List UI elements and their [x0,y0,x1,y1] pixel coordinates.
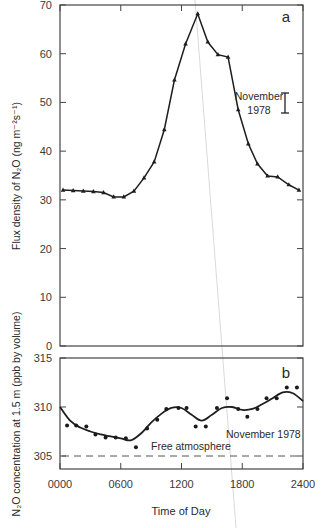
data-dot [176,406,180,410]
error-bar-label-month: November [235,90,284,102]
data-dot [164,407,168,411]
data-dot [285,385,289,389]
data-dot [65,424,69,428]
data-dot [93,432,97,436]
x-tick-label: 0000 [48,478,72,490]
y-tick-label: 10 [40,291,52,303]
y-tick-label: 315 [34,352,52,364]
y-tick-label: 310 [34,401,52,413]
data-dot [114,435,118,439]
triangle-marker [162,127,167,131]
panel-a-y-axis: 010203040506070 [40,0,303,352]
y-tick-label: 60 [40,48,52,60]
triangle-marker [152,159,157,163]
panel-b-frame [60,358,303,469]
data-dot [124,436,128,440]
y-tick-label: 30 [40,194,52,206]
figure: 010203040506070 a November 1978 Flux den… [0,0,322,528]
triangle-marker [236,107,241,111]
data-dot [185,406,189,410]
panel-b-note: November 1978 [226,428,301,440]
data-dot [74,424,78,428]
panel-b: 305310315 00000600120018002400 b Novembe… [10,312,315,517]
error-bar-label-year: 1978 [247,104,271,116]
panel-a-x-ticks [60,5,303,11]
y-tick-label: 20 [40,243,52,255]
x-tick-label: 2400 [291,478,315,490]
triangle-marker [206,39,211,43]
x-tick-label: 1200 [169,478,193,490]
panel-b-letter: b [282,364,290,381]
x-tick-label: 0600 [109,478,133,490]
triangle-marker [246,141,251,145]
x-tick-label: 1800 [230,478,254,490]
data-dot [255,407,259,411]
data-dot [245,415,249,419]
data-dot [265,396,269,400]
triangle-marker [183,41,188,45]
data-dot [225,396,229,400]
y-tick-label: 0 [46,340,52,352]
data-dot [204,425,208,429]
panel-a-letter: a [282,8,291,25]
panel-b-y-title: N₂O concentration at 1.5 m (ppb by volum… [10,312,22,517]
data-dot [236,407,240,411]
data-dot [134,445,138,449]
y-tick-label: 50 [40,96,52,108]
free-atmosphere-label: Free atmosphere [151,440,231,452]
data-dot [194,425,198,429]
y-tick-label: 70 [40,0,52,11]
panel-a-y-title: Flux density of N₂O (ng m⁻²s⁻¹) [10,102,22,250]
data-dot [295,385,299,389]
data-dot [215,406,219,410]
y-tick-label: 305 [34,450,52,462]
triangle-marker [172,77,177,81]
data-dot [104,435,108,439]
data-dot [275,396,279,400]
x-axis-title: Time of Day [152,505,211,517]
panel-a: 010203040506070 a November 1978 Flux den… [10,0,303,352]
data-dot [84,425,88,429]
data-dot [145,427,149,431]
data-dot [155,418,159,422]
panel-b-x-axis: 00000600120018002400 [48,463,315,490]
y-tick-label: 40 [40,145,52,157]
